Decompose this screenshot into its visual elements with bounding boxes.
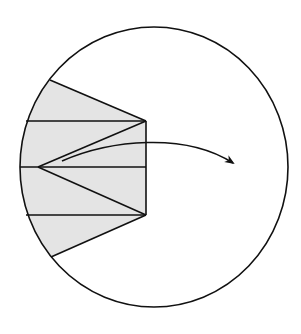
- diagram-canvas: [0, 0, 301, 334]
- diagram-svg: [0, 0, 301, 334]
